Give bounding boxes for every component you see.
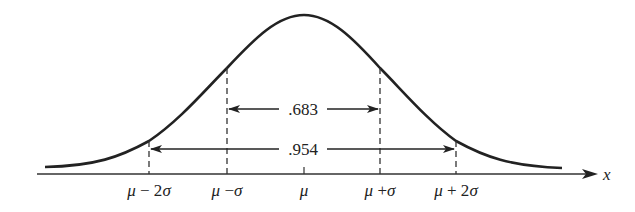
tick-label-mu-plus-sigma: μ +σ — [364, 181, 396, 200]
two-sigma-probability: .954 — [288, 140, 318, 159]
tick-label-mu-minus-2sigma: μ − 2σ — [126, 181, 171, 200]
tick-label-mu: μ — [299, 181, 309, 200]
normal-distribution-diagram: x .683 .954 μ − 2σ μ −σ μ μ +σ μ + 2σ — [0, 0, 635, 212]
tick-label-mu-plus-2sigma: μ + 2σ — [433, 181, 478, 200]
x-axis-label: x — [602, 165, 611, 184]
tick-label-mu-minus-sigma: μ −σ — [211, 181, 243, 200]
one-sigma-probability: .683 — [288, 100, 318, 119]
